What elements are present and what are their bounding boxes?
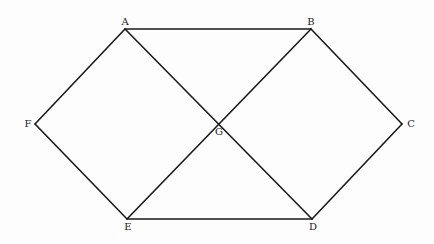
vertex-label-a: A	[121, 17, 128, 27]
vertex-label-c: C	[407, 119, 415, 129]
edge-bc	[311, 29, 402, 124]
vertex-label-e: E	[124, 222, 131, 232]
vertex-label-b: B	[307, 17, 314, 27]
vertex-label-f: F	[25, 119, 32, 129]
vertex-label-g: G	[215, 127, 223, 137]
diagram-edges	[0, 0, 434, 244]
edge-fa	[35, 29, 125, 124]
edge-ef	[35, 124, 127, 219]
edge-cd	[312, 124, 402, 219]
vertex-label-d: D	[309, 222, 317, 232]
diagram-canvas: A B C D E F G	[0, 0, 434, 244]
